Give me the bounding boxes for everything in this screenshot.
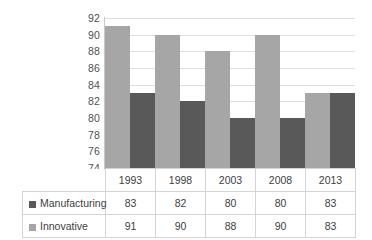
- legend-item-manufacturing[interactable]: Manufacturing: [23, 192, 106, 215]
- bar-group-2013: [305, 18, 355, 168]
- table-cell-manufacturing-1998: 82: [156, 192, 206, 215]
- table-cell-manufacturing-2003: 80: [206, 192, 256, 215]
- legend-swatch-icon: [29, 224, 36, 231]
- bar-manufacturing-2008: [280, 118, 305, 168]
- bar-group-2003: [205, 18, 255, 168]
- bar-manufacturing-1993: [130, 93, 155, 168]
- table-header-2003: 2003: [206, 169, 256, 192]
- y-axis-tick-88: 88: [88, 46, 100, 56]
- bar-group-2008: [255, 18, 305, 168]
- table-cell-innovative-1993: 91: [106, 215, 156, 238]
- y-axis-tick-90: 90: [88, 30, 100, 40]
- y-axis-tick-82: 82: [88, 96, 100, 106]
- y-axis-tick-86: 86: [88, 63, 100, 73]
- table-header-2013: 2013: [306, 169, 356, 192]
- table-cell-innovative-1998: 90: [156, 215, 206, 238]
- table-header-1998: 1998: [156, 169, 206, 192]
- table-corner-blank: [23, 169, 106, 192]
- table-cell-innovative-2008: 90: [256, 215, 306, 238]
- y-axis-tick-80: 80: [88, 113, 100, 123]
- bar-group-1998: [155, 18, 205, 168]
- data-table: 19931998200320082013Manufacturing8382808…: [22, 168, 356, 238]
- table-row: Innovative9190889083: [23, 215, 356, 238]
- table-cell-manufacturing-2008: 80: [256, 192, 306, 215]
- table-header-1993: 1993: [106, 169, 156, 192]
- table-cell-manufacturing-1993: 83: [106, 192, 156, 215]
- legend-item-innovative[interactable]: Innovative: [23, 215, 106, 238]
- y-axis-tick-labels: 92908886848280787674: [72, 13, 100, 169]
- table-header-2008: 2008: [256, 169, 306, 192]
- bar-innovative-1993: [105, 26, 130, 168]
- plot-area: 92908886848280787674: [0, 0, 372, 176]
- bar-groups: [105, 18, 355, 168]
- y-axis-tick-84: 84: [88, 80, 100, 90]
- plot-canvas: [105, 18, 355, 168]
- table-cell-manufacturing-2013: 83: [306, 192, 356, 215]
- y-axis-tick-92: 92: [88, 13, 100, 23]
- table-cell-innovative-2013: 83: [306, 215, 356, 238]
- bar-group-1993: [105, 18, 155, 168]
- bar-manufacturing-2003: [230, 118, 255, 168]
- y-axis-tick-76: 76: [88, 146, 100, 156]
- bar-innovative-2003: [205, 51, 230, 168]
- table-row: Manufacturing8382808083: [23, 192, 356, 215]
- bar-manufacturing-2013: [330, 93, 355, 168]
- legend-label: Manufacturing: [40, 197, 107, 209]
- bar-innovative-2008: [255, 35, 280, 168]
- bar-innovative-1998: [155, 35, 180, 168]
- legend-swatch-icon: [29, 201, 36, 208]
- chart-container: 92908886848280787674 1993199820032008201…: [0, 0, 372, 240]
- y-axis-tick-78: 78: [88, 130, 100, 140]
- table-row-categories: 19931998200320082013: [23, 169, 356, 192]
- table-cell-innovative-2003: 88: [206, 215, 256, 238]
- bar-innovative-2013: [305, 93, 330, 168]
- legend-label: Innovative: [40, 220, 88, 232]
- bar-manufacturing-1998: [180, 101, 205, 168]
